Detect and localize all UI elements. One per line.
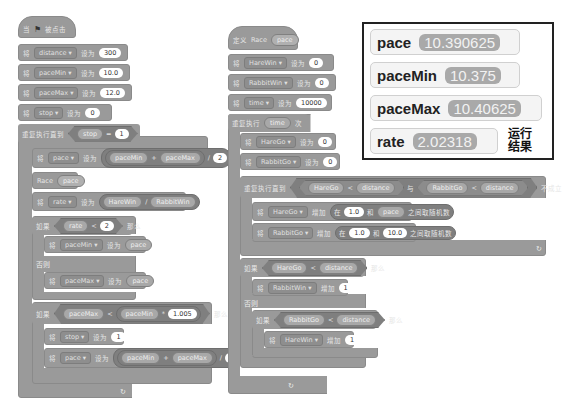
random-operator[interactable]: 在 1.0 和 10.0 之间取随机数 <box>335 226 456 240</box>
random-operator[interactable]: 在 1.0 和 pace 之间取随机数 <box>330 204 454 220</box>
variable-dropdown[interactable]: pace ▾ <box>48 152 79 164</box>
set-distance-block[interactable]: 将 distance ▾ 设为 300 <box>18 44 128 61</box>
set-pace-avg-block[interactable]: 将 pace ▾ 设为 paceMin + paceMax / 2 <box>44 348 224 368</box>
rabbitgo-reporter[interactable]: RabbitGo <box>283 314 325 326</box>
set-pacemin-pace-block[interactable]: 将 paceMin ▾ 设为 pace <box>44 236 146 253</box>
pacemin-reporter[interactable]: paceMin <box>120 308 159 320</box>
rabbitgo-reporter[interactable]: RabbitGo <box>426 182 468 194</box>
pacemax-reporter[interactable]: paceMax <box>63 308 104 320</box>
divide-operator[interactable]: paceMin + paceMax / 2 <box>101 148 231 168</box>
value-input[interactable]: 1.005 <box>168 309 197 319</box>
variable-dropdown[interactable]: HareGo ▾ <box>256 136 296 148</box>
less-than-condition[interactable]: rate < 2 <box>54 218 123 234</box>
change-harewin-block[interactable]: 将 HareWin ▾ 增加 1 <box>264 331 354 348</box>
repeat-until-race-header[interactable]: 重复执行直到 HareGo < distance 与 RabbitGo < di… <box>240 177 544 198</box>
variable-dropdown[interactable]: distance ▾ <box>34 47 77 59</box>
if-rate-header[interactable]: 如果 rate < 2 那么 <box>32 217 132 235</box>
set-pacemax-pace-block[interactable]: 将 paceMax ▾ 设为 pace <box>44 272 146 289</box>
divide-operator[interactable]: paceMin + paceMax / 2 <box>113 348 243 368</box>
pace-reporter[interactable]: pace <box>377 206 405 218</box>
value-input[interactable]: 1.0 <box>349 228 369 238</box>
set-time-block[interactable]: 将 time ▾ 设为 10000 <box>228 94 332 111</box>
variable-dropdown[interactable]: HareWin ▾ <box>280 334 323 346</box>
distance-reporter[interactable]: distance <box>336 314 376 326</box>
distance-reporter[interactable]: distance <box>480 182 520 194</box>
pace-reporter[interactable]: pace <box>125 239 153 251</box>
variable-dropdown[interactable]: RabbitGo ▾ <box>268 227 313 239</box>
harego-reporter[interactable]: HareGo <box>308 182 344 194</box>
value-input[interactable]: 12.0 <box>100 88 124 98</box>
multiply-operator[interactable]: paceMin * 1.005 <box>116 306 201 322</box>
less-than-condition[interactable]: RabbitGo < distance <box>417 180 528 196</box>
add-operator[interactable]: paceMin + paceMax <box>105 150 205 166</box>
variable-dropdown[interactable]: pace ▾ <box>60 352 91 364</box>
value-input[interactable]: 1 <box>339 283 353 293</box>
variable-dropdown[interactable]: RabbitWin ▾ <box>268 282 317 294</box>
if-harego-header[interactable]: 如果 HareGo < distance 那么 <box>240 259 364 277</box>
value-input[interactable]: 10.0 <box>383 228 407 238</box>
value-input[interactable]: 0 <box>323 157 337 167</box>
less-than-condition[interactable]: RabbitGo < distance <box>274 312 385 328</box>
value-input[interactable]: 1.0 <box>344 207 364 217</box>
pace-argument[interactable]: pace <box>57 175 85 187</box>
equals-condition[interactable]: stop = 1 <box>68 126 138 142</box>
repeat-until-header[interactable]: 重复执行直到 stop = 1 <box>18 124 140 143</box>
value-input[interactable]: 300 <box>99 48 121 58</box>
repeat-time-header[interactable]: 重复执行 time 次 <box>228 114 308 131</box>
variable-dropdown[interactable]: rate ▾ <box>48 196 77 208</box>
pacemin-reporter[interactable]: paceMin <box>121 352 160 364</box>
monitor-pacemax[interactable]: paceMax 10.40625 <box>370 95 542 121</box>
less-than-condition[interactable]: HareGo < distance <box>262 260 367 276</box>
define-race-hat[interactable]: 定义 Race pace <box>228 26 298 50</box>
value-input[interactable]: 2 <box>100 221 114 231</box>
set-harewin-block[interactable]: 将 HareWin ▾ 设为 0 <box>228 54 334 71</box>
monitor-rate[interactable]: rate 2.02318 <box>370 128 498 154</box>
rate-reporter[interactable]: rate <box>63 220 88 232</box>
harego-reporter[interactable]: HareGo <box>271 262 307 274</box>
if-rabbitgo-header[interactable]: 如果 RabbitGo < distance 那么 <box>252 311 376 329</box>
value-input[interactable]: 0 <box>318 137 332 147</box>
set-rabbitwin-block[interactable]: 将 RabbitWin ▾ 设为 0 <box>228 74 336 91</box>
value-input[interactable]: 1 <box>345 335 359 345</box>
distance-reporter[interactable]: distance <box>356 182 396 194</box>
time-reporter[interactable]: time <box>264 117 291 129</box>
harewin-reporter[interactable]: HareWin <box>103 196 143 208</box>
divide-operator[interactable]: HareWin / RabbitWin <box>99 194 200 210</box>
set-stop-1-block[interactable]: 将 stop ▾ 设为 1 <box>44 328 124 345</box>
when-flag-clicked-hat[interactable]: 当 ⚑ 被点击 <box>18 16 76 38</box>
monitor-pace[interactable]: pace 10.390625 <box>370 29 520 55</box>
less-than-condition[interactable]: paceMax < paceMin * 1.005 <box>54 304 210 324</box>
pace-reporter[interactable]: pace <box>126 275 154 287</box>
stop-reporter[interactable]: stop <box>77 128 103 140</box>
value-input[interactable]: 0 <box>85 108 99 118</box>
variable-dropdown[interactable]: paceMax ▾ <box>60 275 104 287</box>
and-condition[interactable]: HareGo < distance 与 RabbitGo < distance <box>290 178 537 198</box>
if-pacemax-header[interactable]: 如果 paceMax < paceMin * 1.005 那么 <box>32 303 210 324</box>
set-pacemax-block[interactable]: 将 paceMax ▾ 设为 12.0 <box>18 84 132 101</box>
set-pacemin-block[interactable]: 将 paceMin ▾ 设为 10.0 <box>18 64 130 81</box>
variable-dropdown[interactable]: stop ▾ <box>34 107 63 119</box>
variable-dropdown[interactable]: paceMin ▾ <box>60 239 103 251</box>
pace-parameter[interactable]: pace <box>271 34 299 46</box>
change-rabbitwin-block[interactable]: 将 RabbitWin ▾ 增加 1 <box>252 279 348 296</box>
value-input[interactable]: 1 <box>115 129 129 139</box>
value-input[interactable]: 1 <box>111 332 125 342</box>
value-input[interactable]: 10000 <box>296 98 327 108</box>
add-operator[interactable]: paceMin + paceMax <box>117 350 217 366</box>
set-rabbitgo-block[interactable]: 将 RabbitGo ▾ 设为 0 <box>240 153 340 170</box>
value-input[interactable]: 0 <box>315 78 329 88</box>
variable-dropdown[interactable]: stop ▾ <box>60 331 89 343</box>
monitor-pacemin[interactable]: paceMin 10.375 <box>370 62 520 88</box>
set-stop-block[interactable]: 将 stop ▾ 设为 0 <box>18 104 112 121</box>
value-input[interactable]: 10.0 <box>99 68 123 78</box>
value-input[interactable]: 0 <box>309 58 323 68</box>
less-than-condition[interactable]: HareGo < distance <box>299 180 404 196</box>
variable-dropdown[interactable]: HareWin ▾ <box>244 57 287 69</box>
rabbitwin-reporter[interactable]: RabbitWin <box>150 196 195 208</box>
variable-dropdown[interactable]: paceMax ▾ <box>34 87 78 99</box>
set-pace-block[interactable]: 将 pace ▾ 设为 paceMin + paceMax / 2 <box>32 148 208 168</box>
variable-dropdown[interactable]: RabbitWin ▾ <box>244 77 293 89</box>
set-harego-block[interactable]: 将 HareGo ▾ 设为 0 <box>240 133 336 150</box>
variable-dropdown[interactable]: HareGo ▾ <box>268 206 308 218</box>
pacemin-reporter[interactable]: paceMin <box>109 152 148 164</box>
